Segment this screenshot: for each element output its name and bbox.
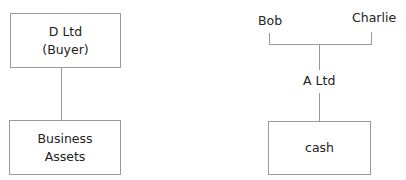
shareholder-charlie: Charlie xyxy=(352,11,396,25)
company-a-ltd: A Ltd xyxy=(303,74,335,88)
shareholder-bracket xyxy=(269,44,372,45)
buyer-name: D Ltd xyxy=(49,23,82,41)
buyer-to-assets-connector xyxy=(61,68,62,120)
buyer-role: (Buyer) xyxy=(42,41,88,59)
business-assets-line2: Assets xyxy=(45,148,86,166)
company-to-cash-connector xyxy=(319,93,320,121)
shareholder-bob: Bob xyxy=(258,14,282,28)
shareholders-to-company-connector xyxy=(319,44,320,70)
cash-label: cash xyxy=(305,139,334,157)
business-assets-box: Business Assets xyxy=(9,120,121,175)
cash-box: cash xyxy=(268,121,371,175)
business-assets-line1: Business xyxy=(37,130,92,148)
buyer-box: D Ltd (Buyer) xyxy=(10,13,121,68)
